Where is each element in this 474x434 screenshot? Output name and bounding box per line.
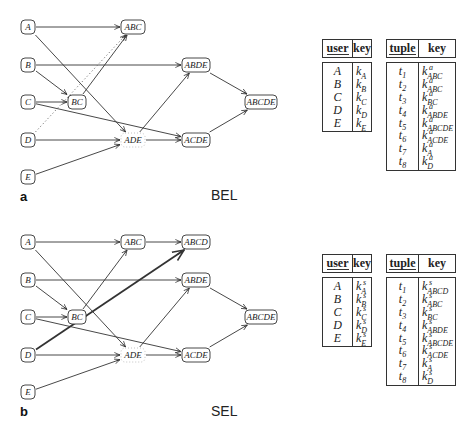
tuple-cell: t7 bbox=[387, 142, 418, 155]
edge-abde-to-abcde bbox=[210, 288, 247, 309]
svg-text:C: C bbox=[25, 97, 32, 107]
header-tuple: tuple bbox=[387, 255, 418, 272]
user-cell: E bbox=[323, 117, 352, 130]
key-cell: ksBC bbox=[419, 306, 455, 319]
edge-d-to-abcd bbox=[36, 250, 184, 350]
scheme-title-sel: SEL bbox=[211, 403, 237, 419]
key-graph-sel: ABCDEABCABCDBCADEABDEACDEABCDE bbox=[0, 215, 290, 415]
tuple-cell: t6 bbox=[387, 129, 418, 142]
svg-text:ABC: ABC bbox=[124, 22, 143, 32]
node-d: D bbox=[21, 133, 35, 147]
user-cell: A bbox=[323, 65, 352, 78]
tuple-cell: t3 bbox=[387, 306, 418, 319]
user-cell: D bbox=[323, 104, 352, 117]
svg-text:ABCDE: ABCDE bbox=[246, 312, 276, 322]
node-e: E bbox=[21, 170, 35, 184]
key-cell: kD bbox=[353, 104, 371, 117]
node-b: B bbox=[21, 58, 35, 72]
edge-e-to-ade bbox=[36, 360, 120, 390]
svg-text:D: D bbox=[24, 350, 32, 360]
node-ade: ADE bbox=[121, 133, 145, 147]
svg-text:ACDE: ACDE bbox=[183, 350, 208, 360]
key-cell: ksD bbox=[419, 370, 455, 383]
node-b: B bbox=[21, 273, 35, 287]
node-c: C bbox=[21, 310, 35, 324]
edge-bc-to-abc bbox=[83, 35, 127, 94]
key-cell: kaABC bbox=[419, 78, 455, 91]
tuple-cell: t3 bbox=[387, 91, 418, 104]
node-ade: ADE bbox=[121, 348, 145, 362]
edge-e-to-ade bbox=[36, 145, 120, 175]
header-key: key bbox=[352, 255, 371, 272]
header-key: key bbox=[418, 255, 455, 272]
tuple-cell: t4 bbox=[387, 319, 418, 332]
svg-text:BC: BC bbox=[71, 312, 83, 322]
tuple-cell: t8 bbox=[387, 155, 418, 168]
user-table-header: userkey bbox=[322, 39, 372, 58]
tuple-key-table-a: tuplekeyt1t2t3t4t5t6t7t8kaABCkaABCkaBCka… bbox=[386, 39, 456, 171]
key-graph-bel: ABCDEABCBCADEABDEACDEABCDE bbox=[0, 0, 290, 200]
tuple-table-header: tuplekey bbox=[386, 39, 456, 58]
key-cell: ksB bbox=[353, 293, 371, 306]
key-cell: ksABCD bbox=[419, 280, 455, 293]
node-c: C bbox=[21, 95, 35, 109]
user-table-header: userkey bbox=[322, 254, 372, 273]
tuple-table-body: t1t2t3t4t5t6t7t8kaABCkaABCkaBCkaABDEkaAB… bbox=[386, 62, 456, 171]
edge-abde-to-abcde bbox=[210, 73, 247, 94]
header-user: user bbox=[323, 40, 352, 57]
node-e: E bbox=[21, 385, 35, 399]
svg-text:ADE: ADE bbox=[123, 135, 142, 145]
svg-text:ADE: ADE bbox=[123, 350, 142, 360]
tuple-cell: t5 bbox=[387, 332, 418, 345]
header-key: key bbox=[418, 40, 455, 57]
node-bc: BC bbox=[68, 310, 86, 324]
tuple-table-header: tuplekey bbox=[386, 254, 456, 273]
scheme-title-bel: BEL bbox=[211, 187, 237, 203]
user-cell: C bbox=[323, 91, 352, 104]
header-key: key bbox=[352, 40, 371, 57]
key-cell: ksE bbox=[353, 332, 371, 345]
header-tuple: tuple bbox=[387, 40, 418, 57]
svg-text:ABDE: ABDE bbox=[184, 60, 208, 70]
key-cell: kA bbox=[353, 65, 371, 78]
panel-label-b: b bbox=[20, 404, 28, 419]
node-acde: ACDE bbox=[182, 348, 210, 362]
node-acde: ACDE bbox=[182, 133, 210, 147]
key-cell: kaABDE bbox=[419, 104, 455, 117]
edge-acde-to-abcde bbox=[210, 110, 248, 132]
key-cell: kaABC bbox=[419, 65, 455, 78]
user-table-body: ABCDEksAksBksCksDksE bbox=[322, 277, 372, 347]
key-cell: kaD bbox=[419, 155, 455, 168]
tuple-cell: t7 bbox=[387, 357, 418, 370]
tuple-cell: t1 bbox=[387, 65, 418, 78]
tuple-cell: t5 bbox=[387, 117, 418, 130]
svg-text:ABCDE: ABCDE bbox=[246, 97, 276, 107]
user-cell: C bbox=[323, 306, 352, 319]
svg-text:ACDE: ACDE bbox=[183, 135, 208, 145]
edge-ade-to-abde bbox=[140, 288, 190, 347]
tuple-cell: t2 bbox=[387, 293, 418, 306]
user-cell: D bbox=[323, 319, 352, 332]
header-user: user bbox=[323, 255, 352, 272]
tuple-table-body: t1t2t3t4t5t6t7t8ksABCDksABCksBCksABDEksA… bbox=[386, 277, 456, 386]
key-cell: ksC bbox=[353, 306, 371, 319]
user-key-table-b: userkeyABCDEksAksBksCksDksE bbox=[322, 254, 372, 347]
key-cell: ksD bbox=[353, 319, 371, 332]
node-d: D bbox=[21, 348, 35, 362]
svg-text:ABCD: ABCD bbox=[183, 237, 208, 247]
svg-text:ABDE: ABDE bbox=[184, 275, 208, 285]
key-cell: kB bbox=[353, 78, 371, 91]
node-abc: ABC bbox=[121, 20, 145, 34]
user-cell: B bbox=[323, 293, 352, 306]
user-key-table-a: userkeyABCDEkAkBkCkDkE bbox=[322, 39, 372, 132]
svg-text:A: A bbox=[24, 22, 31, 32]
tuple-key-table-b: tuplekeyt1t2t3t4t5t6t7t8ksABCDksABCksBCk… bbox=[386, 254, 456, 386]
node-a: A bbox=[21, 235, 35, 249]
user-cell: A bbox=[323, 280, 352, 293]
node-abcde: ABCDE bbox=[245, 95, 277, 109]
node-bc: BC bbox=[68, 95, 86, 109]
user-cell: B bbox=[323, 78, 352, 91]
key-cell: ksABDE bbox=[419, 319, 455, 332]
node-a: A bbox=[21, 20, 35, 34]
svg-text:B: B bbox=[25, 60, 31, 70]
